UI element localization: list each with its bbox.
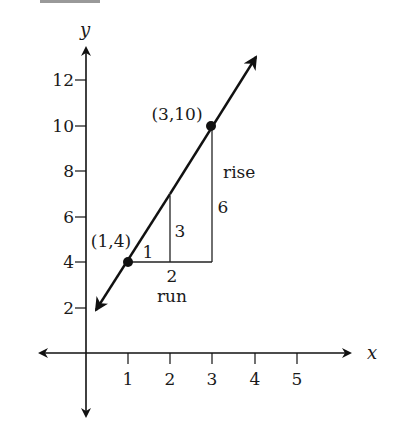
x-axis-label: x	[367, 342, 377, 363]
y-tick-label: 10	[52, 116, 74, 136]
point-1-4	[123, 257, 133, 267]
y-ticks: 2 4 6 8 10 12	[52, 70, 86, 318]
rise-run-triangles: 1 3 6 rise 2 run	[128, 126, 255, 306]
x-tick-label: 1	[123, 369, 134, 389]
small-run-value: 1	[143, 242, 154, 262]
y-tick-label: 8	[63, 161, 74, 181]
small-rise-value: 3	[175, 221, 186, 241]
clipped-text-remnant	[40, 0, 100, 3]
rise-value: 6	[218, 197, 229, 217]
y-tick-label: 2	[63, 298, 74, 318]
y-axis-label: y	[79, 19, 91, 40]
x-tick-label: 5	[292, 369, 303, 389]
x-tick-label: 4	[250, 369, 261, 389]
run-value: 2	[167, 266, 178, 286]
x-axis: x 1 2 3 4 5	[40, 342, 377, 389]
x-ticks: 1 2 3 4 5	[123, 353, 303, 389]
x-tick-label: 2	[165, 369, 176, 389]
y-axis: y 2 4 6 8 10 12	[52, 19, 91, 416]
coordinate-graph: x 1 2 3 4 5 y 2 4 6 8 10	[0, 0, 399, 435]
y-tick-label: 6	[63, 207, 74, 227]
x-tick-label: 3	[207, 369, 218, 389]
data-points: (1,4) (3,10)	[91, 104, 216, 267]
point-3-10	[206, 121, 216, 131]
run-label: run	[157, 286, 187, 306]
y-tick-label: 4	[63, 252, 74, 272]
point-label-3-10: (3,10)	[151, 104, 202, 124]
point-label-1-4: (1,4)	[91, 231, 131, 251]
rise-label: rise	[223, 162, 255, 182]
y-tick-label: 12	[52, 70, 74, 90]
